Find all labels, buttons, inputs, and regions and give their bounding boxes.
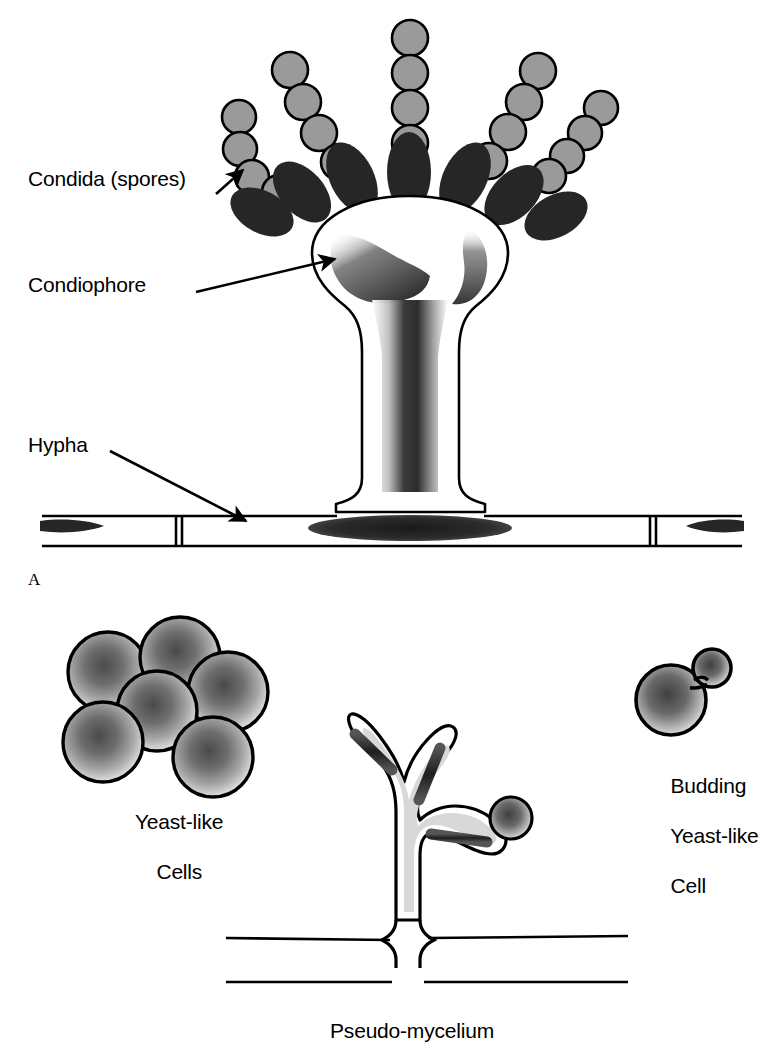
label-yeast-like-cells-line1: Yeast-like xyxy=(135,810,223,833)
hypha-nucleus-left xyxy=(40,520,104,533)
label-conidia: Condida (spores) xyxy=(28,166,186,191)
label-budding-line1: Budding xyxy=(671,774,747,797)
hypha-nucleus-right xyxy=(686,520,744,533)
conidiophore-body xyxy=(312,196,508,512)
label-yeast-like-cells: Yeast-like Cells xyxy=(58,784,278,909)
waist-left xyxy=(382,920,396,968)
label-budding-line2: Yeast-like xyxy=(670,824,758,847)
fungal-morphology-figure: Condida (spores) Condiophore Hypha A Yea… xyxy=(0,0,784,1063)
hypha-nucleus-center xyxy=(308,515,512,541)
pseudo-mycelium-terminal-bud xyxy=(490,797,532,839)
conidiophore-assembly xyxy=(222,20,618,512)
label-budding-yeast-cell: Budding Yeast-like Cell xyxy=(648,748,758,923)
label-pseudo-mycelium: Pseudo-mycelium xyxy=(292,1018,532,1043)
label-hypha: Hypha xyxy=(28,432,88,457)
conidia-chain-far-right xyxy=(532,91,618,193)
label-conidiophore: Condiophore xyxy=(28,272,146,297)
hypha-b-top-right xyxy=(428,936,628,938)
hypha-b-top-left xyxy=(226,938,390,940)
label-budding-line3: Cell xyxy=(671,874,706,897)
bud xyxy=(693,649,731,687)
panel-letter-a: A xyxy=(28,570,40,590)
pseudo-mycelium xyxy=(226,714,628,982)
leader-lines-panel-a xyxy=(110,170,335,521)
budding-yeast-cell xyxy=(636,649,731,735)
yeast-like-cell-cluster xyxy=(63,617,268,797)
hypha-arrow xyxy=(110,451,246,521)
label-yeast-like-cells-line2: Cells xyxy=(156,860,202,883)
hypha-panel-a xyxy=(40,515,744,546)
conidiophore-arrow xyxy=(196,259,335,292)
waist-right xyxy=(420,920,434,968)
stalk-shading xyxy=(372,300,448,492)
